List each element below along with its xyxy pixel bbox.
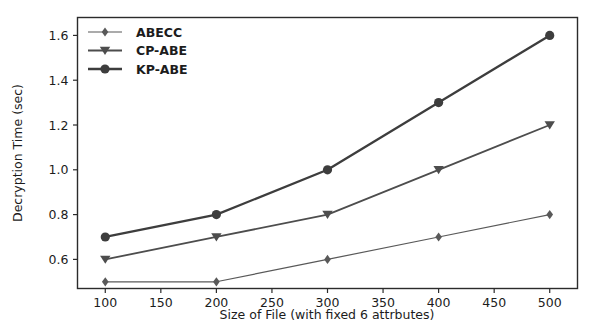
- y-tick-label: 1.0: [49, 162, 69, 177]
- y-tick-label: 1.2: [49, 118, 69, 133]
- x-tick-label: 500: [538, 295, 562, 310]
- chart-figure: 100150200250300350400450500 0.60.81.01.2…: [0, 0, 598, 327]
- circle-icon: [434, 98, 443, 107]
- y-tick-label: 1.4: [49, 73, 69, 88]
- x-axis-title: Size of File (with fixed 6 attrbutes): [220, 307, 435, 322]
- circle-icon: [100, 64, 109, 73]
- legend-item-label: ABECC: [136, 25, 182, 40]
- circle-icon: [545, 31, 554, 40]
- x-tick-label: 100: [93, 295, 117, 310]
- circle-icon: [101, 232, 110, 241]
- legend-item-label: KP-ABE: [136, 62, 188, 77]
- y-axis-title: Decryption Time (sec): [10, 84, 25, 222]
- y-tick-label: 0.6: [49, 252, 69, 267]
- y-tick-label: 0.8: [49, 207, 69, 222]
- figure-background: [0, 0, 598, 327]
- chart-legend: ABECCCP-ABEKP-ABE: [88, 25, 188, 77]
- x-tick-label: 150: [149, 295, 173, 310]
- circle-icon: [212, 210, 221, 219]
- legend-item-label: CP-ABE: [136, 43, 187, 58]
- decryption-time-line-chart: 100150200250300350400450500 0.60.81.01.2…: [0, 0, 598, 327]
- x-tick-label: 450: [482, 295, 506, 310]
- circle-icon: [323, 165, 332, 174]
- y-tick-label: 1.6: [49, 28, 69, 43]
